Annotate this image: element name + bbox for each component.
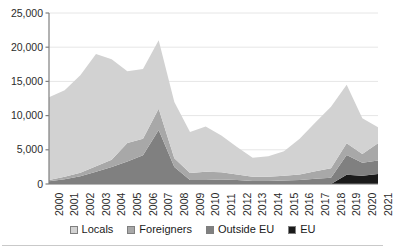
x-axis-tick-label: 2018 [336, 193, 347, 216]
y-axis-tick-label: 10,000 [11, 110, 43, 121]
x-axis-tick-label: 2019 [351, 193, 362, 216]
legend-swatch-icon [288, 226, 296, 234]
area-series-locals [49, 40, 378, 180]
x-axis-tick-label: 2014 [273, 193, 284, 216]
y-axis-tick-label: 15,000 [11, 76, 43, 87]
y-axis-tick-label: 5,000 [17, 144, 43, 155]
x-axis-tick-label: 2012 [242, 193, 253, 216]
legend-swatch-icon [127, 226, 135, 234]
area-series-group [49, 40, 378, 184]
x-axis-tick-label: 2002 [85, 193, 96, 216]
legend-label: EU [300, 224, 315, 235]
x-axis-tick-label: 2017 [320, 193, 331, 216]
legend-label: Foreigners [139, 224, 192, 235]
legend-label: Outside EU [218, 224, 274, 235]
y-axis-tick-label: 0 [37, 179, 43, 190]
bottom-divider [2, 245, 383, 246]
x-axis-tick-label: 2005 [132, 193, 143, 216]
x-axis-tick-label: 2011 [226, 193, 237, 216]
legend-item[interactable]: EU [288, 224, 315, 235]
legend-swatch-icon [70, 226, 78, 234]
x-axis-tick-label: 2021 [383, 193, 394, 216]
legend-item[interactable]: Locals [70, 224, 114, 235]
chart-legend: LocalsForeignersOutside EUEU [0, 224, 385, 235]
legend-swatch-icon [206, 226, 214, 234]
x-axis-tick-label: 2016 [304, 193, 315, 216]
x-axis-tick-label: 2009 [195, 193, 206, 216]
x-axis-tick-label: 2000 [54, 193, 65, 216]
x-axis-tick-label: 2008 [179, 193, 190, 216]
y-axis-tick-label: 20,000 [11, 42, 43, 53]
x-axis-tick-label: 2003 [101, 193, 112, 216]
x-axis-tick-label: 2006 [148, 193, 159, 216]
y-axis-tick-label: 25,000 [11, 8, 43, 19]
x-axis-tick-label: 2010 [210, 193, 221, 216]
legend-item[interactable]: Outside EU [206, 224, 274, 235]
x-axis-tick-label: 2001 [69, 193, 80, 216]
x-axis-tick-label: 2007 [163, 193, 174, 216]
x-axis-tick-label: 2015 [289, 193, 300, 216]
legend-item[interactable]: Foreigners [127, 224, 192, 235]
x-axis-tick-label: 2013 [257, 193, 268, 216]
x-axis-tick-label: 2004 [116, 193, 127, 216]
x-axis-tick-label: 2020 [367, 193, 378, 216]
legend-label: Locals [82, 224, 114, 235]
